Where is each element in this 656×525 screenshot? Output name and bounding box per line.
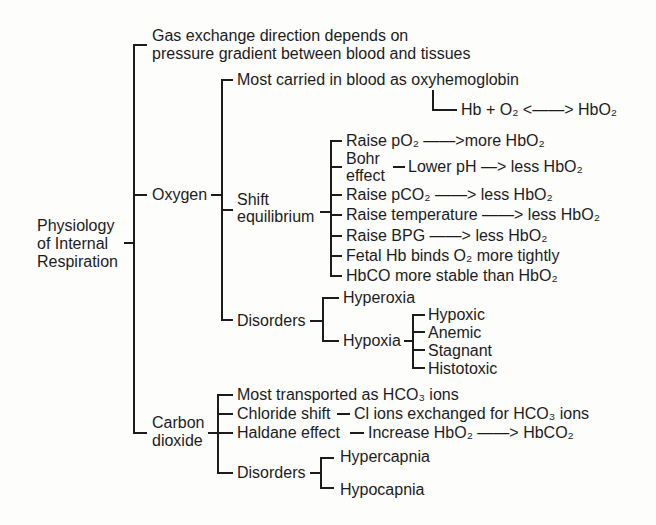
chloride-shift-label: Chloride shift xyxy=(237,405,330,423)
general-statement-line: pressure gradient between blood and tiss… xyxy=(152,45,470,63)
root-label-line: of Internal xyxy=(37,235,118,253)
root-label-line: Respiration xyxy=(37,253,118,271)
bohr-effect-label-line: effect xyxy=(346,167,385,184)
general-statement-line: Gas exchange direction depends on xyxy=(152,27,470,45)
general-statement: Gas exchange direction depends on pressu… xyxy=(152,27,470,63)
hypoxia-bracket-line xyxy=(413,315,425,368)
co2-label: Carbon dioxide xyxy=(152,414,204,450)
oxygen-transport-text: Most carried in blood as oxyhemoglobin xyxy=(237,71,519,89)
hypercapnia-label: Hypercapnia xyxy=(340,448,430,466)
root-bracket-line xyxy=(134,45,147,433)
hypoxia-type: Hypoxic xyxy=(428,306,497,324)
hypoxia-type: Stagnant xyxy=(428,342,497,360)
hypoxia-types: Hypoxic Anemic Stagnant Histotoxic xyxy=(428,306,497,378)
co2-label-line: Carbon xyxy=(152,414,204,432)
shift-item: HbCO more stable than HbO₂ xyxy=(346,267,558,285)
hypocapnia-label: Hypocapnia xyxy=(340,481,425,499)
internal-respiration-tree-diagram: Physiology of Internal Respiration Gas e… xyxy=(0,0,656,525)
co2-disorders-bracket-line xyxy=(321,458,334,488)
bohr-effect-detail: Lower pH —> less HbO₂ xyxy=(408,158,583,176)
hypoxia-item-ticks xyxy=(413,332,425,350)
oxyhemoglobin-connector xyxy=(433,90,457,110)
co2-transport-text: Most transported as HCO₃ ions xyxy=(237,386,459,404)
hyperoxia-label: Hyperoxia xyxy=(343,289,415,307)
bohr-effect-label: Bohr effect xyxy=(346,150,385,184)
root-label: Physiology of Internal Respiration xyxy=(37,217,118,271)
oxyhemoglobin-equation: Hb + O₂ <——> HbO₂ xyxy=(461,101,617,119)
o2-disorders-bracket-line xyxy=(323,298,339,341)
o2-disorders-label: Disorders xyxy=(237,312,305,330)
shift-item: Raise BPG ——> less HbO₂ xyxy=(346,227,547,245)
shift-item: Raise pO₂ ——>more HbO₂ xyxy=(346,132,545,150)
oxygen-bracket-line xyxy=(222,80,233,320)
shift-item-ticks xyxy=(331,167,342,256)
hypoxia-type: Histotoxic xyxy=(428,360,497,378)
shift-equilibrium-label-line: Shift xyxy=(237,191,314,208)
shift-equilibrium-label-line: equilibrium xyxy=(237,208,314,225)
hypoxia-type: Anemic xyxy=(428,324,497,342)
chloride-shift-detail: Cl ions exchanged for HCO₃ ions xyxy=(354,405,589,423)
shift-equilibrium-label: Shift equilibrium xyxy=(237,191,314,225)
hypoxia-label: Hypoxia xyxy=(343,332,401,350)
shift-item: Fetal Hb binds O₂ more tightly xyxy=(346,247,559,265)
oxygen-label: Oxygen xyxy=(152,186,207,204)
shift-item: Raise pCO₂ ——> less HbO₂ xyxy=(346,186,553,204)
haldane-effect-detail: Increase HbO₂ ——> HbCO₂ xyxy=(368,424,574,442)
co2-label-line: dioxide xyxy=(152,432,204,450)
shift-item: Raise temperature ——> less HbO₂ xyxy=(346,206,600,224)
haldane-effect-label: Haldane effect xyxy=(237,424,340,442)
root-label-line: Physiology xyxy=(37,217,118,235)
bohr-effect-label-line: Bohr xyxy=(346,150,385,167)
co2-disorders-label: Disorders xyxy=(237,464,305,482)
